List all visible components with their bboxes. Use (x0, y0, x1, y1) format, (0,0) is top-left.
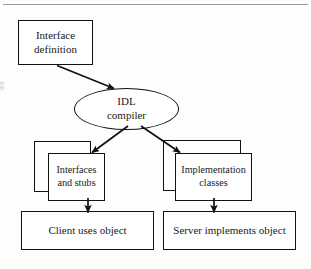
node-server-implements-object-label: Server implements object (171, 224, 287, 238)
node-interface-definition-label: Interface definition (32, 29, 79, 57)
node-implementation-classes-label: Implementation classes (179, 164, 248, 190)
node-server-implements-object: Server implements object (163, 211, 296, 250)
page-top-rule (3, 4, 308, 5)
node-interfaces-and-stubs: Interfaces and stubs (48, 153, 105, 201)
node-interface-definition: Interface definition (18, 20, 93, 65)
edge-interface-definition-to-idl-compiler (57, 66, 114, 89)
node-implementation-classes: Implementation classes (175, 153, 252, 201)
edge-idl-compiler-to-interfaces-and-stubs (92, 126, 128, 153)
node-idl-compiler: IDL compiler (74, 88, 179, 130)
diagram-page: Interface definition IDL compiler Interf… (0, 0, 311, 269)
node-idl-compiler-label: IDL compiler (107, 95, 146, 123)
node-interfaces-and-stubs-label: Interfaces and stubs (54, 164, 98, 190)
node-client-uses-object-label: Client uses object (46, 224, 128, 238)
node-client-uses-object: Client uses object (21, 211, 154, 250)
scan-artifact-speck (0, 82, 4, 91)
